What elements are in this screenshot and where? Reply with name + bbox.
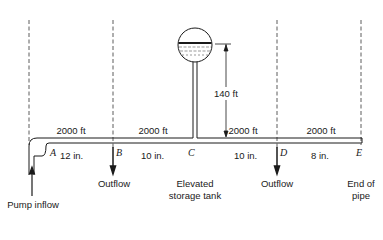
segment-de-length: 2000 ft (306, 125, 335, 136)
segment-bc-length: 2000 ft (138, 125, 167, 136)
pump-inflow-arrow (30, 167, 35, 196)
storage-tank (178, 28, 212, 62)
end-caption-line2: pipe (352, 190, 370, 201)
segment-de-diameter: 8 in. (311, 150, 329, 161)
outflow-d-label: Outflow (261, 178, 293, 189)
end-caption-line1: End of (347, 178, 374, 189)
outflow-b-label: Outflow (98, 178, 130, 189)
point-c-label: C (188, 147, 195, 158)
tank-caption-line2: storage tank (169, 190, 221, 201)
point-e-label: E (356, 147, 362, 158)
point-a-label: A (50, 147, 56, 158)
outflow-d-arrow (275, 147, 280, 174)
segment-bc-diameter: 10 in. (141, 150, 164, 161)
pump-inflow-label: Pump inflow (7, 199, 59, 210)
tank-caption-line1: Elevated (177, 178, 214, 189)
segment-ab-length: 2000 ft (56, 125, 85, 136)
tank-riser (193, 61, 197, 138)
segment-cd-diameter: 10 in. (234, 150, 257, 161)
segment-cd-length: 2000 ft (228, 125, 257, 136)
tank-height-label: 140 ft (214, 88, 238, 99)
outflow-b-arrow (111, 147, 116, 174)
point-d-label: D (280, 147, 287, 158)
point-b-label: B (116, 147, 122, 158)
segment-ab-diameter: 12 in. (60, 150, 83, 161)
